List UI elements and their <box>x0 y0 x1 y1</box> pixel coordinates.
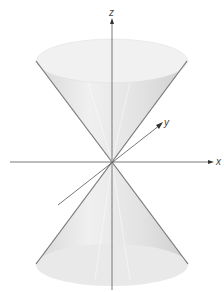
x-axis-label: x <box>215 156 222 167</box>
z-axis-label: z <box>108 7 114 18</box>
x-arrow-icon <box>208 160 214 164</box>
z-arrow-icon <box>110 18 114 24</box>
y-axis-label: y <box>163 117 170 128</box>
double-cone-diagram: z x y <box>0 0 224 292</box>
x-axis: x <box>10 156 222 167</box>
y-arrow-icon <box>156 122 163 129</box>
